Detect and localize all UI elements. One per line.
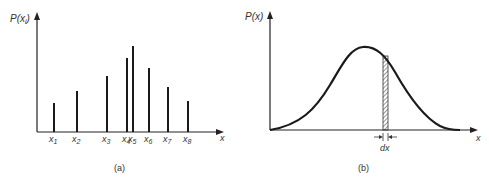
- panel-a: P(xi) x x1x2x3x4x5x6x7x8 (a): [10, 12, 225, 173]
- tick-label-x2: x2: [71, 134, 81, 145]
- x-axis-label-a: x: [219, 133, 225, 143]
- caption-a: (a): [114, 163, 125, 173]
- y-axis-label-a: P(xi): [10, 13, 30, 25]
- y-axis-arrow-icon: [34, 12, 40, 20]
- figure: P(xi) x x1x2x3x4x5x6x7x8 (a) P(x) x dx (…: [0, 0, 489, 184]
- tick-label-x8: x8: [182, 134, 192, 145]
- arrow-left-icon: [388, 135, 392, 139]
- panel-b: P(x) x dx (b): [245, 11, 481, 173]
- tick-label-x6: x6: [143, 134, 153, 145]
- tick-labels: x1x2x3x4x5x6x7x8: [48, 134, 192, 145]
- dx-strip: [383, 56, 388, 130]
- x-axis-label-b: x: [475, 133, 481, 143]
- y-axis-arrow-icon: [267, 11, 273, 19]
- density-curve: [270, 47, 460, 130]
- bars: [54, 46, 188, 132]
- dx-label: dx: [380, 143, 390, 153]
- y-axis-label-b: P(x): [245, 11, 263, 22]
- tick-label-x1: x1: [48, 134, 58, 145]
- tick-label-x5: x5: [127, 134, 137, 145]
- caption-b: (b): [358, 163, 369, 173]
- arrow-right-icon: [379, 135, 383, 139]
- tick-label-x3: x3: [101, 134, 111, 145]
- tick-label-x7: x7: [162, 134, 173, 145]
